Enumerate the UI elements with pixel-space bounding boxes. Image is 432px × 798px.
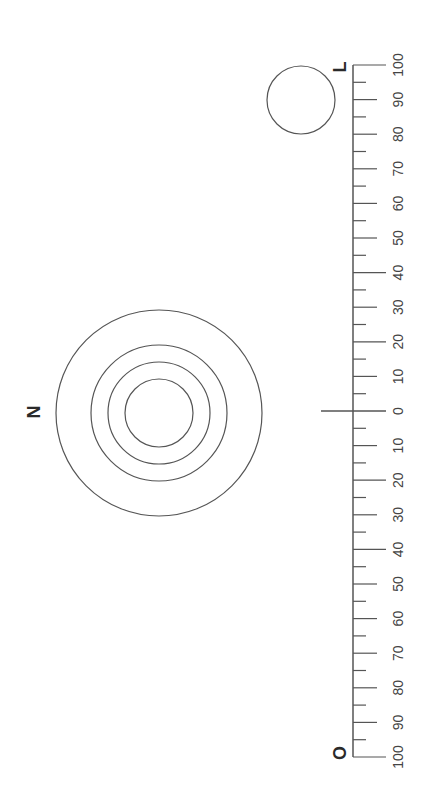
small-circle-shape [267,66,335,134]
tick-label: 40 [390,265,406,281]
label-n: N [24,406,44,419]
tick-label: 70 [390,161,406,177]
tick-label: 50 [390,230,406,246]
tick-label: 100 [390,745,406,769]
label-l: L [330,62,350,73]
tick-label: 90 [390,714,406,730]
tick-label: 90 [390,92,406,108]
tick-label: 30 [390,299,406,315]
tick-label: 10 [390,438,406,454]
letter-labels: N L O [24,62,350,761]
concentric-circle-3 [108,362,210,464]
concentric-circle-4 [125,379,193,447]
distance-scale: 1009080706050403020100102030405060708090… [321,53,406,769]
tick-label: 100 [390,53,406,77]
tick-label: 20 [390,472,406,488]
tick-label: 70 [390,645,406,661]
tick-label: 20 [390,334,406,350]
tick-label: 60 [390,611,406,627]
tick-label: 10 [390,368,406,384]
tick-label: 80 [390,680,406,696]
tick-label: 80 [390,126,406,142]
tick-label: 0 [390,407,406,415]
tick-label: 30 [390,507,406,523]
tick-label: 40 [390,541,406,557]
small-circle [267,66,335,134]
diagram-canvas: 1009080706050403020100102030405060708090… [0,0,432,798]
label-o: O [330,746,350,760]
concentric-circle-1 [56,310,262,516]
concentric-circle-2 [91,345,227,481]
diagram-svg: 1009080706050403020100102030405060708090… [0,0,432,798]
concentric-circles [56,310,262,516]
tick-label: 50 [390,576,406,592]
tick-label: 60 [390,195,406,211]
